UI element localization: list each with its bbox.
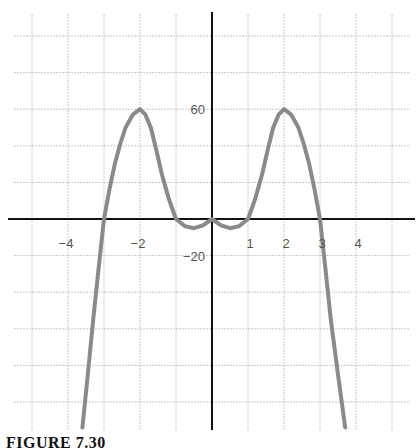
y-tick-label: −20 xyxy=(183,249,205,264)
y-tick-label: 60 xyxy=(191,102,205,117)
x-tick-label: 3 xyxy=(318,236,325,251)
x-tick-label: −2 xyxy=(131,236,146,251)
x-tick-label: −4 xyxy=(59,236,74,251)
x-tick-label: 2 xyxy=(282,236,289,251)
x-tick-label: 1 xyxy=(246,236,253,251)
function-curve xyxy=(82,109,345,427)
x-tick-label: 4 xyxy=(354,236,361,251)
chart-plot: −4−21234 60−20 xyxy=(0,0,418,448)
figure-caption: FIGURE 7.30 xyxy=(6,434,106,448)
